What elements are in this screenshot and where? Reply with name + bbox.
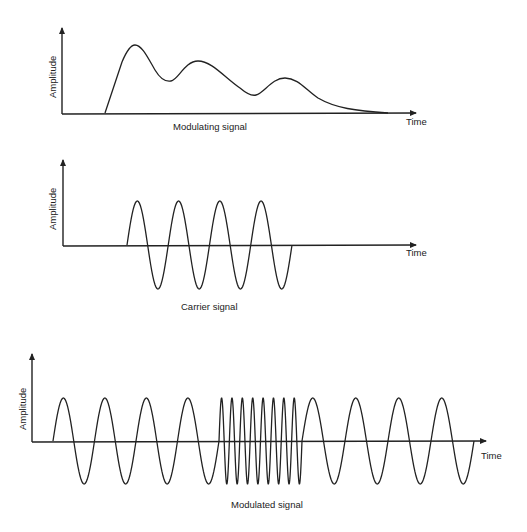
panel-caption: Carrier signal [181, 301, 238, 312]
panel-caption: Modulating signal [173, 121, 247, 132]
x-axis [62, 113, 416, 114]
modulated-signal-panel: Amplitude Time Modulated signal [17, 354, 502, 510]
panel-caption: Modulated signal [231, 499, 303, 510]
carrier-signal-panel: Amplitude Time Carrier signal [47, 160, 427, 312]
modulating-waveform [105, 45, 388, 113]
y-axis-label: Amplitude [17, 388, 28, 430]
x-axis [63, 245, 416, 246]
x-axis [32, 441, 486, 442]
x-axis-label: Time [481, 450, 502, 461]
x-axis-label: Time [406, 116, 427, 127]
signal-diagram: Amplitude Time Modulating signal Amplitu… [0, 0, 527, 532]
y-axis-label: Amplitude [47, 56, 58, 98]
x-axis-label: Time [406, 247, 427, 258]
modulating-signal-panel: Amplitude Time Modulating signal [47, 28, 427, 132]
y-axis-label: Amplitude [47, 188, 58, 230]
